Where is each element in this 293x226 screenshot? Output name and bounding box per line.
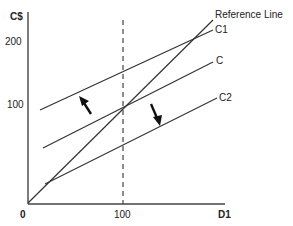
y-tick-200: 200 (5, 37, 22, 47)
line-c2 (45, 98, 217, 184)
x-tick-0: 0 (20, 210, 26, 220)
chart-canvas (0, 0, 293, 226)
x-axis-label: D1 (218, 210, 231, 220)
reference-line (28, 20, 213, 203)
c1-label: C1 (215, 25, 228, 35)
line-c (43, 62, 213, 148)
y-tick-100: 100 (7, 100, 24, 110)
arrow-down-right-icon (151, 104, 162, 126)
c2-label: C2 (219, 93, 232, 103)
x-tick-100: 100 (114, 210, 131, 220)
line-c1 (40, 30, 213, 110)
c-label: C (216, 56, 223, 66)
reference-line-label: Reference Line (215, 10, 283, 20)
arrow-up-left-icon (79, 96, 91, 114)
y-axis-label: C$ (10, 12, 23, 22)
